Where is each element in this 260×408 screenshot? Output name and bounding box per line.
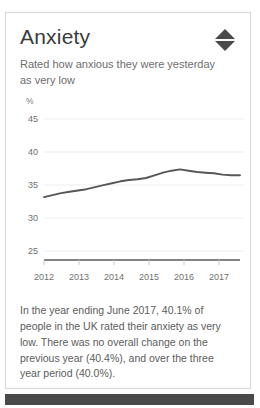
y-axis-unit-label: %: [26, 96, 250, 106]
svg-text:40: 40: [28, 147, 38, 157]
sort-up-down-icon[interactable]: [212, 27, 238, 53]
svg-text:35: 35: [28, 180, 38, 190]
x-tick-label: 2016: [174, 272, 194, 282]
card-header: Anxiety Rated how anxious they were yest…: [6, 13, 250, 88]
gridlines: [44, 119, 244, 251]
card-subtitle: Rated how anxious they were yesterday as…: [20, 57, 220, 88]
x-tick-label: 2014: [104, 272, 124, 282]
y-axis-labels: 45 40 35 30 25: [28, 114, 38, 256]
x-tick-label: 2017: [209, 272, 229, 282]
bottom-bar: [5, 394, 254, 405]
series-line-anxiety: [44, 170, 240, 198]
svg-text:45: 45: [28, 114, 38, 124]
summary-text: In the year ending June 2017, 40.1% of p…: [20, 303, 236, 382]
svg-text:25: 25: [28, 246, 38, 256]
x-tick-label: 2013: [69, 272, 89, 282]
svg-text:30: 30: [28, 213, 38, 223]
line-chart: % 45 40 35 30 25: [6, 96, 250, 289]
x-axis-labels: 2012 2013 2014 2015 2016 2017: [18, 269, 246, 285]
x-tick-label: 2015: [139, 272, 159, 282]
x-tick-label: 2012: [34, 272, 54, 282]
chart-canvas: 45 40 35 30 25: [18, 107, 246, 269]
statistic-card: Anxiety Rated how anxious they were yest…: [5, 12, 251, 389]
page-title: Anxiety: [20, 25, 236, 48]
